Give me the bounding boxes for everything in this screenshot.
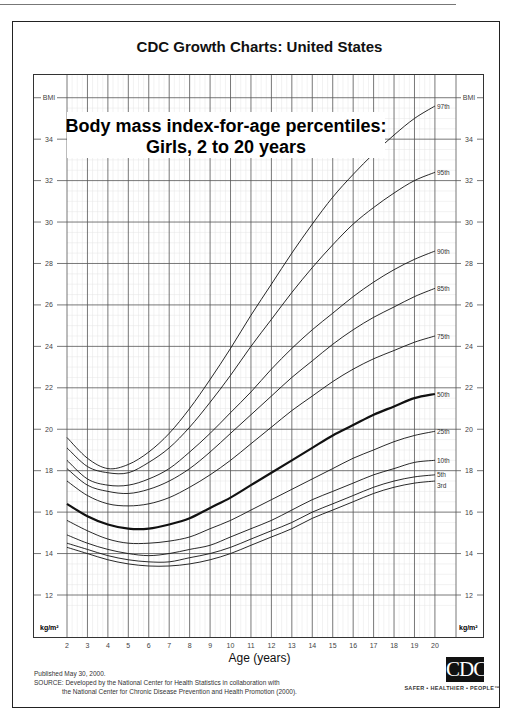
x-axis-title: Age (years) xyxy=(0,651,519,665)
y-unit-right: kg/m² xyxy=(459,624,478,632)
svg-text:32: 32 xyxy=(465,177,473,184)
svg-text:14: 14 xyxy=(465,550,473,557)
svg-text:30: 30 xyxy=(465,219,473,226)
svg-text:15: 15 xyxy=(329,642,337,649)
svg-text:24: 24 xyxy=(465,343,473,350)
svg-text:9: 9 xyxy=(208,642,212,649)
svg-text:5: 5 xyxy=(126,642,130,649)
svg-text:18: 18 xyxy=(45,467,53,474)
svg-text:11: 11 xyxy=(247,642,254,649)
svg-text:22: 22 xyxy=(465,384,473,391)
svg-text:7: 7 xyxy=(167,642,171,649)
svg-text:12: 12 xyxy=(45,592,53,599)
x-axis-labels: 234567891011121314151617181920 xyxy=(65,642,439,649)
cdc-logo: CDC xyxy=(446,657,484,682)
bmi-chart: 97th95th90th85th75th50th25th10th5th3rd 1… xyxy=(0,0,519,723)
label-97th: 97th xyxy=(437,103,450,110)
svg-text:12: 12 xyxy=(465,592,473,599)
svg-text:34: 34 xyxy=(45,136,53,143)
svg-text:20: 20 xyxy=(431,642,439,649)
label-50th: 50th xyxy=(437,391,450,398)
chart-frame xyxy=(34,75,484,638)
label-90th: 90th xyxy=(437,248,450,255)
svg-text:BMI: BMI xyxy=(43,94,56,101)
svg-text:8: 8 xyxy=(188,642,192,649)
svg-text:32: 32 xyxy=(45,177,53,184)
svg-text:18: 18 xyxy=(390,642,398,649)
source-line-2: the National Center for Chronic Disease … xyxy=(34,687,297,696)
svg-text:18: 18 xyxy=(465,467,473,474)
svg-text:4: 4 xyxy=(106,642,110,649)
svg-text:22: 22 xyxy=(45,384,53,391)
svg-text:20: 20 xyxy=(465,426,473,433)
svg-text:34: 34 xyxy=(465,136,473,143)
percentile-curves: 97th95th90th85th75th50th25th10th5th3rd xyxy=(67,103,450,567)
cdc-tagline: SAFER • HEALTHIER • PEOPLE™ xyxy=(380,685,500,691)
chart-title-line2: Girls, 2 to 20 years xyxy=(146,137,306,157)
svg-text:16: 16 xyxy=(45,509,53,516)
svg-text:30: 30 xyxy=(45,219,53,226)
svg-text:28: 28 xyxy=(45,260,53,267)
label-10th: 10th xyxy=(437,457,450,464)
major-grid xyxy=(34,75,483,637)
svg-text:26: 26 xyxy=(45,301,53,308)
chart-title-line1: Body mass index-for-age percentiles: xyxy=(65,116,386,136)
svg-text:6: 6 xyxy=(147,642,151,649)
svg-text:26: 26 xyxy=(465,301,473,308)
svg-text:2: 2 xyxy=(65,642,69,649)
svg-text:20: 20 xyxy=(45,426,53,433)
svg-text:13: 13 xyxy=(288,642,296,649)
svg-text:24: 24 xyxy=(45,343,53,350)
svg-text:3: 3 xyxy=(85,642,89,649)
svg-text:12: 12 xyxy=(268,642,276,649)
svg-text:14: 14 xyxy=(45,550,53,557)
svg-text:16: 16 xyxy=(465,509,473,516)
label-5th: 5th xyxy=(437,471,446,478)
source-line-1: SOURCE: Developed by the National Center… xyxy=(34,678,297,687)
svg-text:16: 16 xyxy=(349,642,357,649)
footer-source: Published May 30, 2000. SOURCE: Develope… xyxy=(34,669,297,696)
svg-text:28: 28 xyxy=(465,260,473,267)
label-75th: 75th xyxy=(437,333,450,340)
svg-text:17: 17 xyxy=(370,642,378,649)
label-25th: 25th xyxy=(437,428,450,435)
svg-text:10: 10 xyxy=(227,642,235,649)
label-3rd: 3rd xyxy=(437,482,447,489)
published-date: Published May 30, 2000. xyxy=(34,669,297,678)
y-unit-left: kg/m² xyxy=(40,624,59,632)
label-85th: 85th xyxy=(437,285,450,292)
svg-text:BMI: BMI xyxy=(463,94,476,101)
svg-text:14: 14 xyxy=(308,642,316,649)
label-95th: 95th xyxy=(437,169,450,176)
svg-text:19: 19 xyxy=(411,642,419,649)
